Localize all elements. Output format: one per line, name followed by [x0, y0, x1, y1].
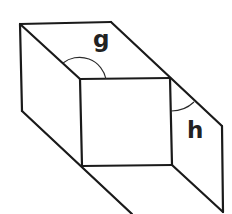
edge-top-back [20, 22, 111, 24]
edge-left-vertical [20, 24, 22, 111]
edge-front-right [170, 78, 172, 165]
angle-arc-h [171, 102, 194, 111]
edge-right-vertical [222, 126, 223, 212]
edge-front-bottom [82, 165, 172, 166]
edge-top-left-diagonal [20, 24, 80, 79]
edge-right-bottom-diagonal [172, 165, 223, 212]
edge-left-bottom-diagonal [22, 111, 132, 214]
left-face [20, 24, 132, 214]
angle-markers [63, 57, 194, 111]
edge-front-left [80, 79, 82, 166]
edge-top-right-diagonal [111, 22, 222, 126]
angle-label-g: g [93, 26, 109, 52]
prism-diagram: g h [0, 0, 232, 214]
edge-front-top [80, 78, 170, 79]
front-square-face [80, 78, 172, 166]
angle-label-h: h [187, 117, 203, 143]
top-face [20, 22, 222, 126]
